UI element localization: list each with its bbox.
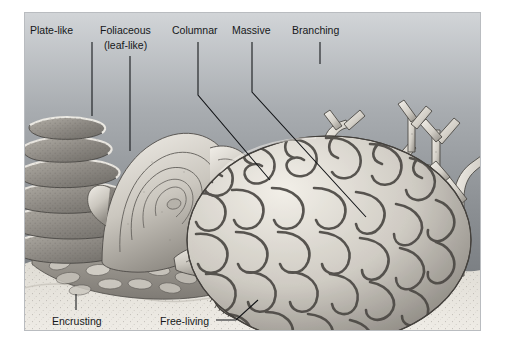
coral-growth-forms-figure: Plate-like Foliaceous (leaf-like) Column… <box>0 0 505 350</box>
label-branching: Branching <box>292 24 339 36</box>
label-plate-like: Plate-like <box>30 24 73 36</box>
illustration-frame: Plate-like Foliaceous (leaf-like) Column… <box>24 12 481 331</box>
label-foliaceous-line2: (leaf-like) <box>104 39 147 51</box>
label-free-living: Free-living <box>160 315 209 327</box>
label-encrusting: Encrusting <box>52 315 102 327</box>
label-massive: Massive <box>232 24 271 36</box>
label-columnar: Columnar <box>172 24 218 36</box>
label-foliaceous-line1: Foliaceous <box>100 24 151 36</box>
